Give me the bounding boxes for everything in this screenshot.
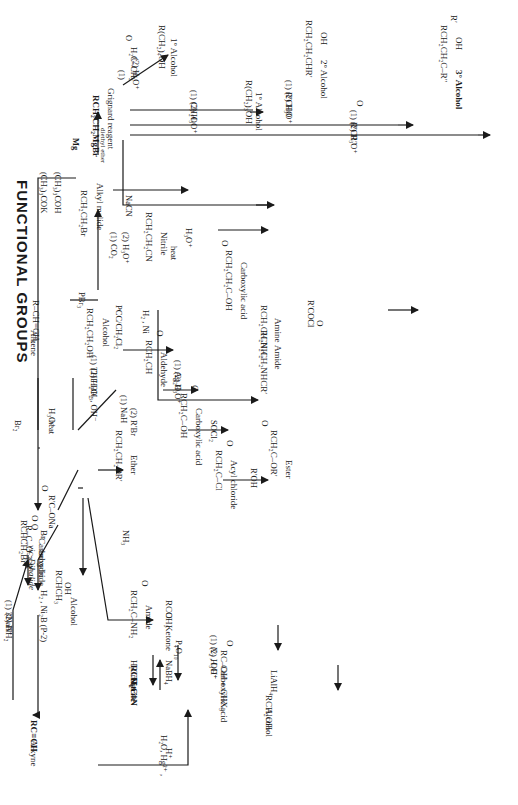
- amine-name: Amine: [273, 318, 282, 343]
- reagent-nabh4: NaBH₄: [165, 660, 174, 685]
- diagram-title: FUNCTIONAL GROUPS: [15, 180, 30, 363]
- amide-sub-carbonyl: O: [316, 320, 323, 327]
- acid-short-carbonyl: O: [191, 385, 198, 392]
- haloform-carbonyl: O: [226, 640, 233, 647]
- reagent-mg: Mg: [72, 138, 81, 150]
- ester-carbonyl: O: [261, 420, 268, 427]
- acid-short-formula: RCH₂C–OH: [179, 393, 188, 438]
- reagent-h3o-heat-1: H₃O⁺: [185, 228, 194, 248]
- amide-formula: RCH₂C–NH₂: [129, 590, 138, 638]
- reagent-nanh2-2: (2) H⁺: [5, 613, 14, 636]
- ether-formula: RCH₂CH₂OR′: [114, 430, 123, 482]
- alcohol-3-sub: OH: [454, 37, 463, 50]
- reagent-br2: Br₂: [14, 420, 23, 431]
- grignard-name: Grignard reagent: [106, 88, 115, 149]
- alkyne-name: Alkyne: [29, 740, 38, 767]
- reagent-socl2: SOCl₂: [210, 420, 219, 442]
- reaction-diagram: FUNCTIONAL GROUPS RCH₂CH₂MgBr Grignard r…: [0, 0, 518, 805]
- aldehyde-name: Aldehyde: [159, 352, 168, 387]
- ketone-sub: O: [164, 612, 173, 619]
- alcohol-3-top: R′: [449, 15, 458, 23]
- sec-alcohol-formula: RCHCH₃: [54, 570, 63, 604]
- reagent-diethyl-ether: diethyl ether: [99, 128, 106, 163]
- reagent-haloform-2: (2) H₃O⁺: [210, 647, 219, 679]
- ester-formula: RCH₂C–OR′: [269, 430, 278, 477]
- ester-name: Ester: [284, 460, 293, 479]
- acid-short-name: Carboxylic acid: [194, 408, 203, 465]
- reagent-rcho-2: (2) H₃O⁺: [285, 92, 294, 124]
- vic-dihalide-sub: Br: [39, 530, 48, 539]
- alcohol-2-name: 2° Alcohol: [319, 60, 328, 99]
- reagent-pbr3: PBr₃: [78, 292, 87, 308]
- alkyl-halide-formula: RCH₂CH₂Br: [79, 190, 88, 236]
- alcohol-2-sub: OH: [319, 32, 328, 45]
- haloform-name: Carboxylic acid: [219, 665, 228, 722]
- aldehyde-carbonyl: O: [156, 330, 163, 337]
- amide-name: Amide: [144, 605, 153, 630]
- reagent-h2-ni: H₂ , Ni: [142, 310, 151, 334]
- reagent-alkene-heat: heat: [48, 420, 57, 434]
- alkyl-halide-name: Alkyl malide: [95, 183, 104, 230]
- alcohol-primary-formula: RCH₂CH₂OH: [85, 308, 94, 358]
- vic-dihalide-name: vic-Dihalide: [27, 545, 36, 590]
- ketone-name: Ketone: [164, 625, 173, 651]
- alkene-name: Alkene: [29, 330, 38, 356]
- reagent-h3o-heat-2: heat: [170, 246, 179, 260]
- acyl-chloride-formula: RCH₂C–Cl: [214, 450, 223, 491]
- acid-long-formula: RCH₂CH₂C–OH: [224, 250, 233, 311]
- reagent-rcocl: R′COCl: [307, 300, 316, 327]
- reagent-h2cro4: H₂CrO₄: [130, 660, 139, 687]
- reagent-rcoona: R′C–ONa: [48, 495, 57, 529]
- reagent-roh: R′OH: [250, 468, 259, 488]
- reagent-lindlar: H₂ , Ni₂B (P-2): [40, 590, 49, 642]
- reagent-nh3: NH₃: [122, 530, 131, 545]
- rcoona-carbonyl: O: [41, 485, 48, 492]
- anhydride-name-2: anhydride: [37, 550, 46, 586]
- sec-alcohol-sub: OH: [63, 582, 72, 595]
- reagent-nah-1: (1) NaH: [120, 395, 129, 423]
- reagent-lialh4: LiAlH₄: [270, 670, 279, 695]
- reagent-tbuok-1: (CH₃)₃COK: [40, 172, 49, 213]
- acyl-chloride-name: Acyl chloride: [229, 460, 238, 509]
- acid-long-name: Carboxylic acid: [239, 262, 248, 319]
- reagent-nacn: NaCN: [125, 195, 134, 217]
- epoxide-oxygen: O: [125, 35, 134, 41]
- reagent-hydroboration-2: (2) H₂O₂ , OH⁻: [90, 368, 99, 421]
- lialh4-alcohol-name: Alcohol: [264, 708, 273, 737]
- alcohol-c3-formula: R(CH₂)₃OH: [244, 80, 253, 124]
- reagent-hg-2: H⁺: [165, 748, 174, 759]
- reagent-co2-1: (1) CO₂: [110, 232, 119, 259]
- reagent-pcc: PCC/CH₂Cl₂: [115, 305, 124, 349]
- reagent-nah-2: (2) R′Br: [130, 408, 139, 436]
- ketone-reagent-carbonyl: O: [356, 100, 363, 107]
- reagent-ch2o-2: (2) H₃O⁺: [190, 102, 199, 134]
- reagent-ketone-2: (2) H₃O⁺: [350, 122, 359, 154]
- alcohol-primary-name: Alcohol: [101, 318, 110, 347]
- reagent-co2-2: (2) H₃O⁺: [122, 232, 131, 264]
- reagent-tbuok-2: (CH₃)₃COH: [54, 172, 63, 213]
- alcohol-c4-formula: R(CH₂)₄OH: [157, 25, 166, 69]
- acyl-chloride-carbonyl: O: [226, 440, 233, 447]
- alcohol-3-name: 3° Alcohol: [454, 70, 463, 109]
- sec-alcohol-name: Alcohol: [69, 597, 78, 626]
- reagent-epoxide-1: (1): [118, 70, 127, 80]
- nitrile-formula: RCH₂CH₂CN: [144, 212, 153, 262]
- nitrile-name: Nitrile: [159, 232, 168, 256]
- amide-sub-formula: RCH₂CH₂NHCR′: [259, 330, 268, 394]
- amide-sub-name: Amide: [273, 345, 282, 370]
- ether-name: Ether: [129, 455, 138, 475]
- acid-long-carbonyl: O: [221, 240, 228, 247]
- reagent-p4o10: P₄O₁₀: [175, 640, 184, 660]
- alcohol-c3-name: 1° Alcohol: [254, 92, 263, 131]
- reagent-epoxide-2: (2) H₃O⁺: [132, 58, 141, 90]
- alcohol-2-formula: RCH₂CH₂CHR′: [304, 20, 313, 78]
- alcohol-c4-name: 1° Alcohol: [169, 38, 178, 77]
- aldehyde-formula: RCH₂CH: [144, 340, 153, 374]
- alcohol-3-formula: RCH₂CH₂C–R″: [439, 25, 448, 83]
- amide-carbonyl: O: [141, 580, 148, 587]
